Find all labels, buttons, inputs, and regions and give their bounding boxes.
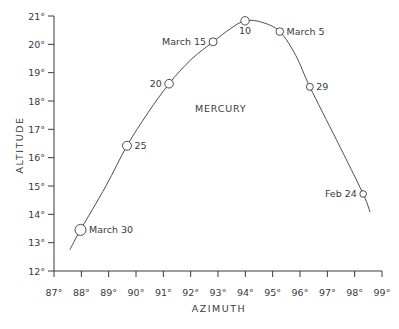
- x-axis-title: AZIMUTH: [192, 303, 246, 314]
- x-tick-label: 97°: [319, 287, 336, 298]
- date-marker: [122, 141, 131, 150]
- date-label: March 30: [89, 224, 133, 235]
- x-tick-label: 99°: [374, 287, 391, 298]
- x-tick-label: 92°: [182, 287, 199, 298]
- y-tick-label: 15°: [28, 181, 45, 192]
- y-tick-label: 12°: [28, 266, 45, 277]
- date-marker: [360, 191, 367, 198]
- y-tick-label: 17°: [28, 124, 45, 135]
- x-tick-label: 87°: [46, 287, 63, 298]
- x-ticks: 87°88°89°90°91°92°93°94°95°96°97°98°99°: [46, 271, 391, 298]
- y-tick-label: 18°: [28, 96, 45, 107]
- date-label: 10: [239, 25, 251, 36]
- date-label: 29: [316, 81, 328, 92]
- y-tick-label: 21°: [28, 11, 45, 22]
- x-tick-label: 95°: [264, 287, 281, 298]
- mercury-path-curve: [70, 20, 370, 250]
- x-tick-label: 88°: [73, 287, 90, 298]
- y-tick-label: 14°: [28, 209, 45, 220]
- y-axis-title: ALTITUDE: [14, 116, 25, 173]
- y-tick-label: 13°: [28, 237, 45, 248]
- date-marker: [209, 38, 217, 46]
- x-tick-label: 91°: [155, 287, 172, 298]
- x-tick-label: 94°: [237, 287, 254, 298]
- x-tick-label: 96°: [292, 287, 309, 298]
- y-tick-label: 20°: [28, 39, 45, 50]
- date-label: March 15: [162, 36, 206, 47]
- axes: 12°13°14°15°16°17°18°19°20°21° 87°88°89°…: [28, 11, 390, 299]
- mercury-altitude-azimuth-chart: 12°13°14°15°16°17°18°19°20°21° 87°88°89°…: [0, 0, 399, 329]
- date-marker: [306, 83, 313, 90]
- y-tick-label: 19°: [28, 67, 45, 78]
- date-label: 20: [150, 78, 162, 89]
- date-label: March 5: [287, 26, 325, 37]
- x-tick-label: 90°: [128, 287, 145, 298]
- x-tick-label: 89°: [100, 287, 117, 298]
- date-marker: [241, 17, 249, 25]
- date-label: Feb 24: [325, 188, 357, 199]
- date-marker: [165, 79, 174, 88]
- data-points: March 302520March 1510March 529Feb 24: [75, 17, 366, 236]
- date-marker: [75, 224, 86, 235]
- series-name-label: MERCURY: [195, 103, 246, 114]
- x-tick-label: 93°: [210, 287, 227, 298]
- y-tick-label: 16°: [28, 152, 45, 163]
- x-tick-label: 98°: [346, 287, 363, 298]
- y-ticks: 12°13°14°15°16°17°18°19°20°21°: [28, 11, 54, 277]
- date-marker: [276, 28, 284, 36]
- annotations: MERCURY: [195, 103, 246, 114]
- date-label: 25: [134, 140, 146, 151]
